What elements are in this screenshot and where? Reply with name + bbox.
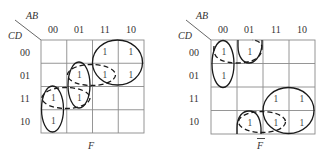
col-label-01: 01 bbox=[74, 24, 84, 35]
cell: 1 bbox=[300, 94, 305, 104]
cell: 1 bbox=[77, 93, 82, 103]
cell: 1 bbox=[103, 70, 108, 80]
group-loop-solid bbox=[93, 40, 143, 85]
group-loop-dashed bbox=[68, 65, 116, 86]
row-label-00: 00 bbox=[20, 47, 30, 58]
kmap-f-bar: AB CD 00 01 11 10 00 01 11 10 1 1 1 1 1 … bbox=[178, 10, 315, 151]
kmap-f: AB CD 00 01 11 10 00 01 11 10 1 1 1 1 1 bbox=[8, 10, 144, 151]
col-label-01: 01 bbox=[244, 24, 254, 35]
row-label-10: 10 bbox=[20, 116, 30, 127]
group-loop-dashed bbox=[239, 112, 286, 133]
cell: 1 bbox=[129, 70, 134, 80]
function-label-f: F bbox=[87, 140, 95, 151]
row-label-00: 00 bbox=[189, 47, 199, 58]
col-label-10: 10 bbox=[297, 24, 307, 35]
row-variable-label: CD bbox=[178, 30, 193, 41]
cell: 1 bbox=[77, 70, 82, 80]
cell: 1 bbox=[51, 116, 56, 126]
cell: 1 bbox=[103, 47, 108, 57]
cell: 1 bbox=[248, 118, 253, 128]
row-label-01: 01 bbox=[189, 70, 199, 81]
col-label-11: 11 bbox=[271, 24, 281, 35]
row-variable-label: CD bbox=[8, 30, 23, 41]
row-label-10: 10 bbox=[189, 116, 199, 127]
cell: 1 bbox=[222, 71, 227, 81]
row-label-11: 11 bbox=[20, 93, 30, 104]
cell: 1 bbox=[300, 118, 305, 128]
function-label-f-bar: F bbox=[256, 140, 264, 151]
col-label-11: 11 bbox=[100, 24, 110, 35]
cell: 1 bbox=[51, 93, 56, 103]
cell: 1 bbox=[129, 47, 134, 57]
col-variable-label: AB bbox=[195, 10, 208, 21]
row-label-11: 11 bbox=[189, 93, 199, 104]
col-label-10: 10 bbox=[126, 24, 136, 35]
group-loop-dashed bbox=[42, 88, 90, 109]
karnaugh-maps-figure: AB CD 00 01 11 10 00 01 11 10 1 1 1 1 1 bbox=[0, 0, 322, 156]
cell: 1 bbox=[274, 118, 279, 128]
col-label-00: 00 bbox=[218, 24, 228, 35]
col-label-00: 00 bbox=[48, 24, 58, 35]
cell: 1 bbox=[274, 94, 279, 104]
row-label-01: 01 bbox=[20, 70, 30, 81]
col-variable-label: AB bbox=[25, 10, 38, 21]
cell: 1 bbox=[222, 47, 227, 57]
cell: 1 bbox=[248, 47, 253, 57]
